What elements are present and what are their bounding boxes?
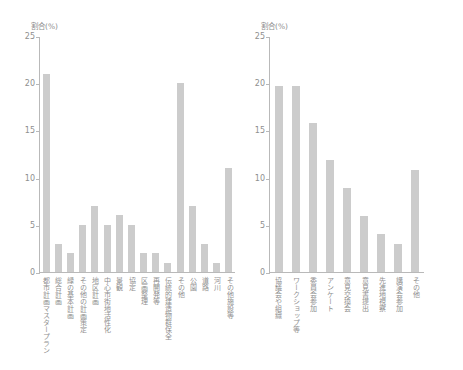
chart-right-x-tick-labels: 協議会や組織ワークショップ等委員会参加アンケート意見交換会意見書提出先進地視察講… [269,277,424,333]
x-label-slot: アンケート [321,277,338,333]
x-label-slot: 伝統的建造物群保全 [162,277,174,354]
bar-slot [407,37,424,272]
x-axis-tick-label: 公園 [188,277,196,291]
chart-right-bars [270,37,424,272]
x-axis-tick-label: 景観 [115,277,123,291]
bar [201,244,208,272]
y-axis-tick [36,226,40,227]
bar-slot [150,37,162,272]
bar-slot [287,37,304,272]
bar [189,206,196,272]
bar-slot [77,37,89,272]
bar-slot [138,37,150,272]
x-axis-tick-label: アンケート [325,277,333,312]
bar [343,188,351,272]
x-label-slot: 緑の基本計画 [64,277,76,354]
x-label-slot: 中心市街地活性化 [100,277,112,354]
bar-slot [304,37,321,272]
y-axis-tick-label: 20 [25,80,35,88]
x-axis-tick-label: 都市計画マスタープラン [41,277,49,354]
y-axis-tick-label: 0 [260,269,265,277]
bar-slot [162,37,174,272]
x-label-slot: その他 [407,277,424,333]
bar-slot [321,37,338,272]
x-axis-tick-label: 協議会や組織 [274,277,282,319]
x-axis-tick-label: 区画整理 [139,277,147,305]
bar-slot [270,37,287,272]
chart-left-y-axis-title: 割合(%) [31,20,58,31]
x-label-slot: 講演会参加 [390,277,407,333]
bar-slot [390,37,407,272]
x-label-slot: 都市計画マスタープラン [39,277,51,354]
bar [43,74,50,272]
x-axis-tick-label: 河川 [213,277,221,291]
y-axis-tick [266,226,270,227]
bar-slot [113,37,125,272]
bar-slot [211,37,223,272]
bar [152,253,159,272]
y-axis-tick-label: 15 [255,127,265,135]
x-axis-tick-label: その他 [412,277,420,298]
chart-right-plot-area: 0510152025 [269,37,424,273]
bar-slot [101,37,113,272]
chart-left: 割合(%) 0510152025 都市計画マスタープラン総合計画緑の基本計画その… [0,0,240,370]
bar [164,263,171,272]
x-axis-tick-label: 再開発等 [152,277,160,305]
bar-slot [52,37,64,272]
bar [177,83,184,272]
bar-slot [174,37,186,272]
x-axis-tick-label: 意見交換会 [343,277,351,312]
chart-right: 割合(%) 0510152025 協議会や組織ワークショップ等委員会参加アンケー… [230,0,463,370]
bar [326,160,334,272]
x-axis-tick-label: 委員会参加 [308,277,316,312]
x-label-slot: 協議会や組織 [269,277,286,333]
x-axis-tick-label: 緑の基本計画 [66,277,74,319]
x-label-slot: その他の計画策定 [76,277,88,354]
chart-right-y-axis-title: 割合(%) [261,20,288,31]
x-label-slot: ワークショップ等 [286,277,303,333]
figure-container: 割合(%) 0510152025 都市計画マスタープラン総合計画緑の基本計画その… [0,0,463,370]
x-label-slot: 協定 [125,277,137,354]
bar-slot [338,37,355,272]
x-axis-tick-label: 先進地視察 [377,277,385,312]
x-label-slot: 河川 [211,277,223,354]
x-label-slot: その他 [174,277,186,354]
x-label-slot: 区画整理 [137,277,149,354]
y-axis-tick-label: 20 [255,80,265,88]
x-label-slot: 意見交換会 [338,277,355,333]
bar [104,225,111,272]
chart-left-bars [40,37,235,272]
x-label-slot: 地区計画 [88,277,100,354]
x-axis-tick-label: 道路 [201,277,209,291]
bar-slot [198,37,210,272]
x-label-slot: 意見書提出 [355,277,372,333]
y-axis-tick-label: 15 [25,127,35,135]
x-axis-tick-label: 協定 [127,277,135,291]
x-label-slot: 道路 [198,277,210,354]
x-label-slot: 総合計画 [51,277,63,354]
y-axis-tick [36,273,40,274]
bar [128,225,135,272]
bar-slot [373,37,390,272]
y-axis-tick-label: 25 [25,33,35,41]
x-axis-tick-label: 中心市街地活性化 [103,277,111,333]
y-axis-tick-label: 0 [30,269,35,277]
y-axis-tick [36,179,40,180]
y-axis-tick-label: 5 [260,222,265,230]
bar-slot [125,37,137,272]
chart-left-plot-area: 0510152025 [39,37,235,273]
x-axis-tick-label: 講演会参加 [394,277,402,312]
x-axis-tick-label: 意見書提出 [360,277,368,312]
y-axis-tick-label: 10 [255,175,265,183]
y-axis-tick [36,37,40,38]
x-label-slot: 委員会参加 [303,277,320,333]
y-axis-tick [36,131,40,132]
x-label-slot: 先進地視察 [372,277,389,333]
bar [91,206,98,272]
bar [55,244,62,272]
x-axis-tick-label: 伝統的建造物群保全 [164,277,172,340]
bar-slot [89,37,101,272]
bar [292,86,300,272]
x-axis-tick-label: その他 [176,277,184,298]
y-axis-tick-label: 25 [255,33,265,41]
